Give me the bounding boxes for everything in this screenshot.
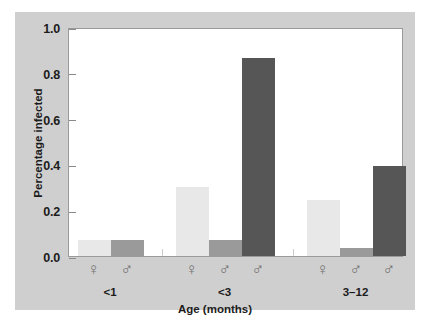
y-axis-tick-label: 0.8 bbox=[43, 68, 60, 82]
male-symbol-icon: ♂ bbox=[120, 261, 133, 278]
chart-bar bbox=[373, 166, 406, 256]
chart-bar bbox=[78, 240, 111, 256]
y-axis-tick-label: 0.2 bbox=[43, 205, 60, 219]
y-axis-tick-label: 0.6 bbox=[43, 114, 60, 128]
group-separator-tick bbox=[293, 249, 294, 256]
plot-area: 0.00.20.40.60.81.0 bbox=[68, 28, 403, 257]
y-axis-tick bbox=[69, 74, 76, 75]
y-axis-title: Percentage infected bbox=[29, 28, 47, 257]
x-axis-group-label: 3–12 bbox=[343, 286, 369, 298]
female-symbol-icon: ♀ bbox=[185, 261, 198, 278]
y-axis-tick bbox=[69, 258, 76, 259]
male-symbol-icon: ♂ bbox=[382, 261, 395, 278]
chart-bar bbox=[209, 240, 242, 256]
y-axis-tick bbox=[69, 212, 76, 213]
group-separator-tick bbox=[162, 249, 163, 256]
male-symbol-icon: ♂ bbox=[349, 261, 362, 278]
male-symbol-icon: ♂ bbox=[251, 261, 264, 278]
y-axis-tick bbox=[69, 120, 76, 121]
x-axis-group-label: <1 bbox=[103, 286, 116, 298]
x-axis-title: Age (months) bbox=[15, 303, 415, 315]
x-axis-group-label: <3 bbox=[218, 286, 231, 298]
female-symbol-icon: ♀ bbox=[87, 261, 100, 278]
chart-bar bbox=[176, 187, 209, 256]
chart-bar bbox=[111, 240, 144, 256]
chart-bar bbox=[340, 248, 373, 256]
figure-panel: Percentage infected 0.00.20.40.60.81.0 ♀… bbox=[15, 12, 415, 310]
y-axis-tick bbox=[69, 29, 76, 30]
male-symbol-icon: ♂ bbox=[218, 261, 231, 278]
y-axis-tick-label: 1.0 bbox=[43, 22, 60, 36]
y-axis-title-label: Percentage infected bbox=[32, 88, 44, 197]
y-axis-tick-label: 0.4 bbox=[43, 159, 60, 173]
y-axis-tick bbox=[69, 166, 76, 167]
female-symbol-icon: ♀ bbox=[316, 261, 329, 278]
chart-bar bbox=[242, 58, 275, 256]
y-axis-tick-label: 0.0 bbox=[43, 251, 60, 265]
chart-bar bbox=[307, 200, 340, 256]
